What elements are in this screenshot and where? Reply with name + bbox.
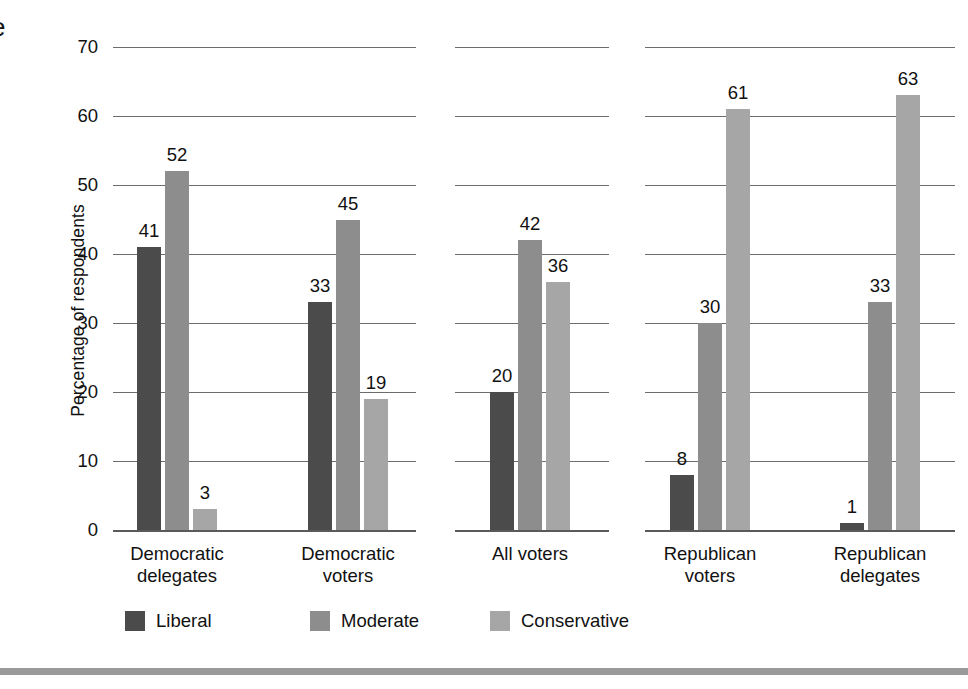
axis-baseline [113,530,416,532]
bar-value-label: 20 [492,367,513,386]
y-axis-tick-label: 60 [56,107,98,126]
bar [336,220,360,531]
y-axis-tick-label: 10 [56,452,98,471]
grid-line [113,116,416,117]
bar [868,302,892,530]
legend-label: Liberal [156,611,212,631]
bar-value-label: 30 [700,298,721,317]
legend-swatch-icon [310,611,330,631]
bar-value-label: 52 [167,146,188,165]
x-axis-category-label: Republicanvoters [664,543,757,587]
x-axis-category-label: Democraticdelegates [130,543,224,587]
y-axis-title: Percentage of respondents [68,171,89,451]
bar [490,392,514,530]
legend-item[interactable]: Moderate [310,608,419,634]
bar [308,302,332,530]
legend-item[interactable]: Conservative [490,608,629,634]
bottom-divider-rule [0,668,968,675]
legend-label: Moderate [341,611,419,631]
bar [137,247,161,530]
y-axis-tick-label: 70 [56,38,98,57]
bar-value-label: 42 [520,215,541,234]
grid-line [645,47,955,48]
grid-line [455,47,609,48]
grid-line [113,47,416,48]
bar-chart: Percentage of respondents 01020304050607… [0,0,968,689]
bar [698,323,722,530]
y-axis-tick-label: 30 [56,314,98,333]
legend-swatch-icon [490,611,510,631]
x-axis-category-label: Democraticvoters [301,543,395,587]
chart-legend: LiberalModerateConservative [0,608,968,638]
bar-value-label: 63 [898,70,919,89]
grid-line [113,185,416,186]
bar [364,399,388,530]
axis-baseline [645,530,955,532]
y-axis-tick-label: 0 [56,521,98,540]
x-axis-category-label-line: Democratic [301,543,395,565]
bar [896,95,920,530]
bar [546,282,570,530]
x-axis-category-label-line: delegates [834,565,927,587]
bar-value-label: 41 [139,222,160,241]
bar-value-label: 8 [677,450,687,469]
bar [670,475,694,530]
y-axis-tick-label: 40 [56,245,98,264]
x-axis-category-label-line: voters [664,565,757,587]
axis-baseline [455,530,609,532]
legend-label: Conservative [521,611,629,631]
grid-line [455,116,609,117]
y-axis-tick-label: 50 [56,176,98,195]
legend-item[interactable]: Liberal [125,608,212,634]
bar [518,240,542,530]
bar [193,509,217,530]
bar-value-label: 19 [366,374,387,393]
x-axis-category-label-line: delegates [130,565,224,587]
bar-value-label: 1 [847,498,857,517]
x-axis-category-label-line: Democratic [130,543,224,565]
bar [840,523,864,530]
x-axis-category-label: All voters [492,543,568,565]
bar-value-label: 33 [310,277,331,296]
bar [726,109,750,530]
x-axis-category-label-line: Republican [664,543,757,565]
bar-value-label: 36 [548,257,569,276]
y-axis-tick-label: 20 [56,383,98,402]
bar [165,171,189,530]
grid-line [455,185,609,186]
legend-swatch-icon [125,611,145,631]
bar-value-label: 61 [728,84,749,103]
x-axis-category-label-line: All voters [492,543,568,565]
x-axis-category-label-line: Republican [834,543,927,565]
x-axis-category-label: Republicandelegates [834,543,927,587]
bar-value-label: 33 [870,277,891,296]
bar-value-label: 45 [338,195,359,214]
x-axis-category-label-line: voters [301,565,395,587]
bar-value-label: 3 [200,484,210,503]
